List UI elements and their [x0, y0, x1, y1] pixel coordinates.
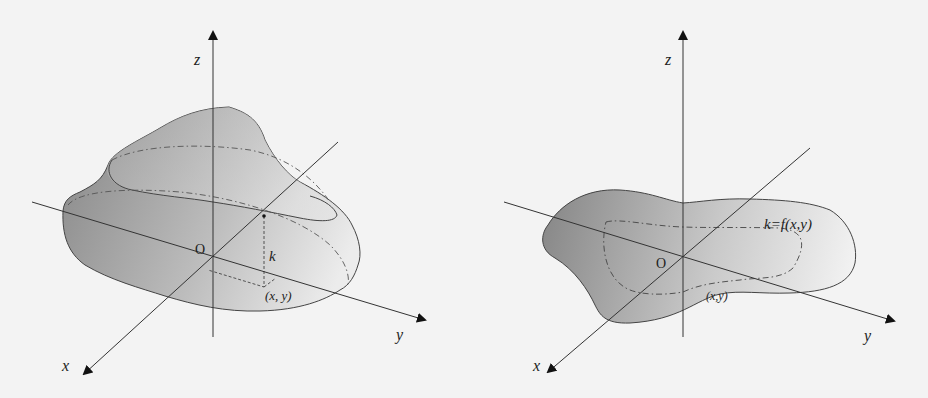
right-origin-label: O	[656, 256, 666, 271]
right-region	[543, 190, 856, 323]
diagram-canvas: z y x O k (x, y) z y x O k=f(x,y) (x,y)	[0, 0, 928, 398]
right-x-label: x	[532, 357, 540, 374]
left-z-label: z	[193, 51, 201, 68]
right-point-label: (x,y)	[706, 289, 728, 303]
right-y-label: y	[862, 327, 872, 345]
left-height-label: k	[269, 248, 276, 264]
right-function-label: k=f(x,y)	[764, 216, 812, 233]
left-point-label: (x, y)	[265, 288, 292, 303]
left-origin-label: O	[195, 242, 205, 257]
left-figure: z y x O k (x, y)	[32, 32, 425, 374]
right-z-label: z	[664, 51, 672, 68]
left-x-label: x	[61, 357, 69, 374]
right-figure: z y x O k=f(x,y) (x,y)	[504, 32, 894, 374]
left-y-label: y	[394, 326, 404, 344]
left-surface-point	[262, 214, 266, 218]
